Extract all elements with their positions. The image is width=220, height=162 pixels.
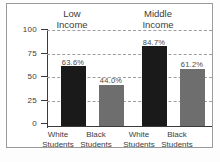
y-tick-label-100: 100	[7, 25, 37, 34]
bar-low-income-black-students	[99, 85, 124, 126]
x-label-line2: Students	[152, 140, 202, 150]
bar-middle-income-black-students	[180, 69, 205, 127]
x-label-line1: Black	[152, 130, 202, 140]
group-title-middle-income: Middle Income	[115, 8, 201, 30]
group-title-low-income: Low Income	[29, 8, 115, 30]
group-title-middle-income-line2: Income	[115, 19, 201, 30]
bar-low-income-white-students	[61, 66, 86, 126]
bar-value-label-middle-income-white: 84.7%	[132, 38, 176, 47]
bar-middle-income-white-students	[142, 46, 167, 126]
chart-frame: Low Income Middle Income 100 75 50 25 0 …	[6, 3, 213, 148]
gridline-100	[47, 30, 212, 31]
plot-area: 63.6% 44.0% 84.7% 61.2%	[47, 32, 212, 126]
bar-value-label-low-income-white: 63.6%	[51, 58, 95, 67]
group-title-middle-income-line1: Middle	[115, 8, 201, 19]
y-tick-label-75: 75	[7, 49, 37, 58]
group-title-low-income-line1: Low	[29, 8, 115, 19]
bar-value-label-middle-income-black: 61.2%	[170, 60, 214, 69]
gridline-75	[47, 54, 212, 55]
y-tick-label-0: 0	[7, 119, 37, 128]
x-axis-line	[47, 126, 212, 127]
x-label-middle-income-black-students: Black Students	[152, 130, 202, 149]
y-tick-label-50: 50	[7, 72, 37, 81]
y-tick-label-25: 25	[7, 96, 37, 105]
bar-value-label-low-income-black: 44.0%	[89, 76, 133, 85]
